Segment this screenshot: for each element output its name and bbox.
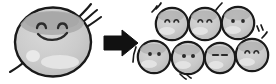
cell-division-illustration: Cell division illustration One large gra… [0, 0, 276, 84]
small-blob-7-highlight [239, 58, 255, 66]
small-blob-3-eye-left [231, 19, 235, 23]
small-blob-3-shadow [224, 10, 250, 21]
small-blob-3-eye-right [241, 19, 245, 23]
small-blob-4-highlight [141, 60, 157, 68]
small-blob-1-highlight [159, 27, 175, 35]
small-blob-5-highlight [175, 61, 191, 69]
small-blob-1-shadow [158, 11, 184, 22]
highlight-small-circle [26, 50, 40, 62]
highlight-oval [41, 55, 79, 69]
small-blob-5-eye-left [182, 54, 186, 58]
large-blob-shadow-band-inner [25, 12, 79, 30]
small-blob-4-shadow [140, 44, 166, 55]
illustration-canvas [0, 0, 276, 84]
small-blob-4-eye-left [148, 52, 152, 56]
small-blob-3-highlight [225, 26, 241, 34]
small-blob-5-eye-right [191, 54, 195, 58]
small-blob-6-highlight [209, 61, 224, 69]
small-blob-4-eye-right [157, 52, 161, 56]
small-blob-5-shadow [174, 45, 200, 56]
small-blob-7-shadow [238, 42, 264, 53]
small-blob-2-shadow [191, 11, 217, 22]
small-blob-2-highlight [192, 27, 208, 35]
small-blob-6 [205, 43, 235, 73]
